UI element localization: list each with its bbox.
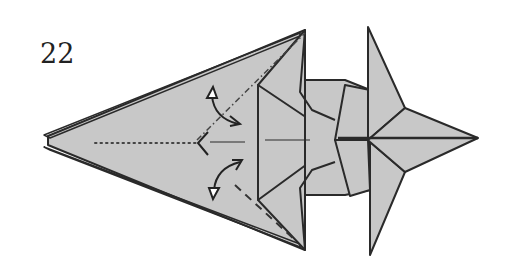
origami-diagram: [0, 0, 517, 277]
